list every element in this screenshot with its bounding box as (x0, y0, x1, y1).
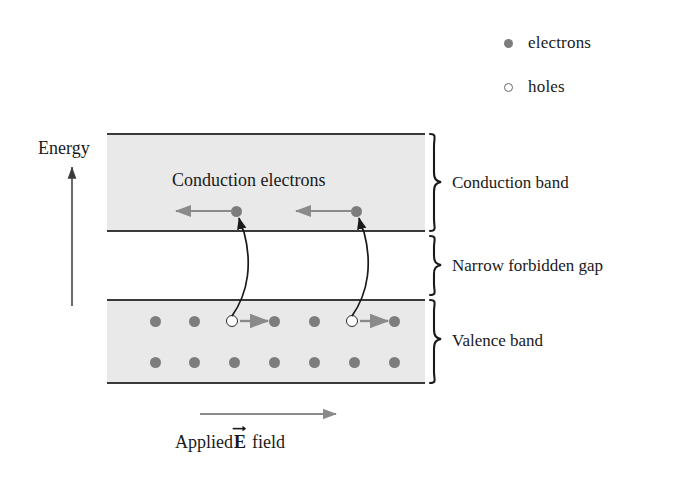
applied-field-suffix: field (252, 432, 285, 452)
valence-bottom-electron-1 (150, 357, 161, 368)
valence-bottom-electron-7 (389, 357, 400, 368)
valence-bottom-electron-4 (269, 357, 280, 368)
valence-top-electron-2 (189, 316, 200, 327)
open-circle-icon (504, 83, 513, 92)
legend-item-electrons: electrons (504, 33, 591, 53)
legend-item-holes: holes (504, 77, 565, 97)
valence-bottom-electron-2 (189, 357, 200, 368)
valence-bottom-electron-3 (229, 357, 240, 368)
valence-top-electron-7 (389, 316, 400, 327)
conduction-band-side-label: Conduction band (452, 173, 569, 193)
field-symbol-e: E (233, 432, 247, 453)
valence-top-electron-1 (150, 316, 161, 327)
applied-field-label: Applied E field (175, 432, 285, 453)
valence-top-hole-1 (226, 315, 238, 327)
figure-canvas: electrons holes Energy Conduction electr… (0, 0, 676, 482)
valence-top-electron-5 (309, 316, 320, 327)
forbidden-gap-side-label: Narrow forbidden gap (452, 256, 603, 276)
brace-forbidden-gap (430, 236, 441, 295)
applied-field-prefix: Applied (175, 432, 233, 452)
conduction-electron-2 (351, 206, 362, 217)
field-symbol-letter: E (234, 432, 246, 452)
brace-valence-band (430, 300, 441, 383)
valence-band-rect (107, 299, 425, 384)
conduction-electrons-label: Conduction electrons (172, 170, 325, 191)
energy-axis-label: Energy (38, 138, 90, 159)
filled-circle-icon (504, 39, 513, 48)
valence-bottom-electron-5 (309, 357, 320, 368)
valence-band-side-label: Valence band (452, 331, 543, 351)
legend-label-holes: holes (528, 77, 565, 97)
vector-overlay (0, 0, 676, 482)
conduction-electron-1 (231, 206, 242, 217)
valence-bottom-electron-6 (349, 357, 360, 368)
legend-label-electrons: electrons (528, 33, 591, 53)
vector-arrow-icon (232, 423, 246, 432)
valence-top-electron-4 (269, 316, 280, 327)
valence-top-hole-2 (346, 315, 358, 327)
brace-conduction-band (430, 134, 441, 231)
